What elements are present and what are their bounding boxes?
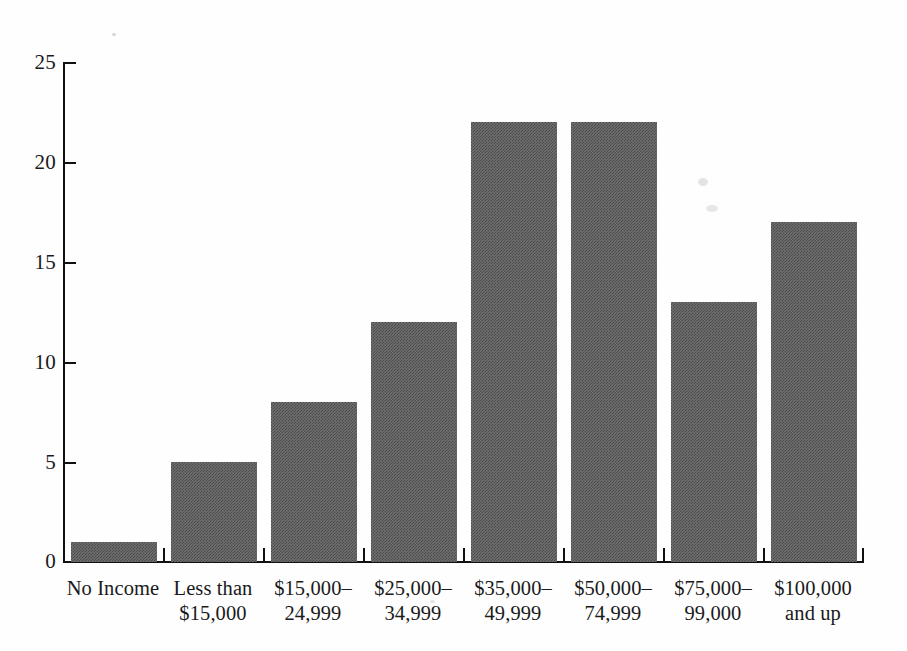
bar-no-income[interactable] xyxy=(71,542,157,562)
bar-100000-and-up[interactable] xyxy=(771,222,857,562)
x-axis-label-100000-and-up: $100,000 and up xyxy=(763,576,863,626)
bar-75000-99000[interactable] xyxy=(671,302,757,562)
bar-25000-34999[interactable] xyxy=(371,322,457,562)
bar-less-than-15000[interactable] xyxy=(171,462,257,562)
x-axis-label-50000-74999: $50,000– 74,999 xyxy=(563,576,663,626)
bar-50000-74999[interactable] xyxy=(571,122,657,562)
bar-chart-figure: 25 20 15 10 5 0 No Income Less than $15,… xyxy=(0,0,907,651)
x-axis-label-less-than-15000: Less than $15,000 xyxy=(163,576,263,626)
x-axis-label-25000-34999: $25,000– 34,999 xyxy=(363,576,463,626)
x-axis-label-15000-24999: $15,000– 24,999 xyxy=(263,576,363,626)
x-axis-label-75000-99000: $75,000– 99,000 xyxy=(663,576,763,626)
x-axis-label-no-income: No Income xyxy=(63,576,163,601)
x-axis-label-35000-49999: $35,000– 49,999 xyxy=(463,576,563,626)
bar-35000-49999[interactable] xyxy=(471,122,557,562)
bars-layer xyxy=(0,0,907,651)
bar-15000-24999[interactable] xyxy=(271,402,357,562)
